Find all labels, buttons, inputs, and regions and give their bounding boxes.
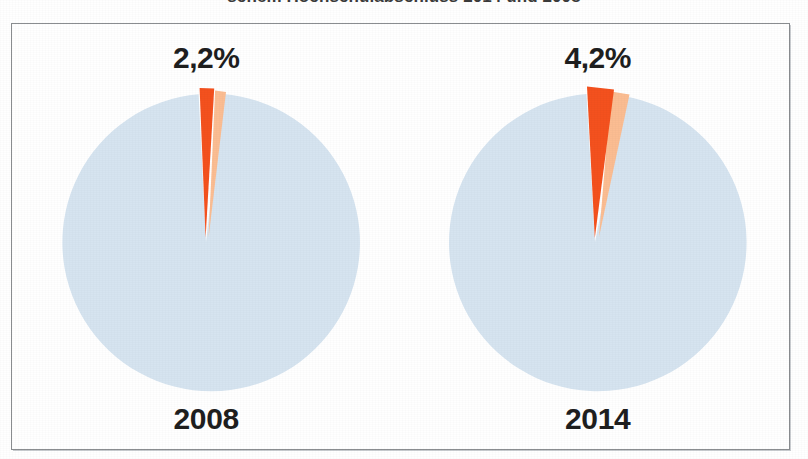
percent-label-2008: 2,2% bbox=[12, 41, 401, 75]
plot-frame: 2,2% 2008 4,2% bbox=[11, 23, 790, 450]
pie-panel-2014: 4,2% 2014 bbox=[401, 24, 790, 449]
chart-title: schem Hochschulabschluss 2014 und 2008 bbox=[0, 0, 808, 7]
percent-label-2014: 4,2% bbox=[401, 41, 790, 75]
pie-chart-2008-wrap bbox=[12, 72, 401, 402]
pie-chart-2008 bbox=[46, 72, 366, 392]
pie-chart-2014-wrap bbox=[401, 72, 790, 402]
pie-panels: 2,2% 2008 4,2% bbox=[12, 24, 789, 449]
pie-chart-2014 bbox=[435, 72, 755, 392]
pie-panel-2008: 2,2% 2008 bbox=[12, 24, 401, 449]
chart-page: schem Hochschulabschluss 2014 und 2008 2… bbox=[0, 0, 808, 459]
year-label-2008: 2008 bbox=[12, 402, 401, 436]
year-label-2014: 2014 bbox=[401, 402, 790, 436]
